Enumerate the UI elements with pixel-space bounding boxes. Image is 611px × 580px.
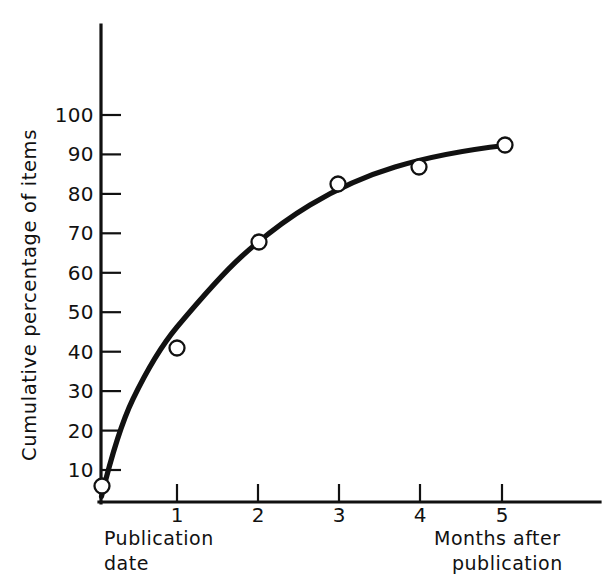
- data-markers: [95, 138, 513, 494]
- x-axis-ticks: [177, 484, 502, 501]
- x-tick-label-2: 2: [252, 503, 265, 527]
- chart-canvas: 100 90 80 70 60 50 40 30 20 10 1 2 3 4 5: [0, 0, 611, 580]
- y-tick-label-100: 100: [55, 103, 94, 127]
- publication-date-line2: date: [104, 552, 149, 574]
- data-point-2: [252, 235, 267, 250]
- x-tick-label-3: 3: [333, 503, 346, 527]
- y-tick-label-50: 50: [68, 300, 94, 324]
- data-point-1: [170, 341, 185, 356]
- x-axis-caption-right: Months after publication: [434, 527, 563, 574]
- data-point-0: [95, 479, 110, 494]
- y-tick-label-20: 20: [68, 419, 94, 443]
- y-axis-title: Cumulative percentage of items: [18, 129, 41, 461]
- y-tick-label-70: 70: [68, 221, 94, 245]
- chart-figure: 100 90 80 70 60 50 40 30 20 10 1 2 3 4 5: [0, 0, 611, 580]
- data-curve: [102, 146, 506, 497]
- y-tick-label-80: 80: [68, 182, 94, 206]
- x-tick-label-1: 1: [171, 503, 184, 527]
- data-point-3: [331, 177, 346, 192]
- months-after-line2: publication: [452, 552, 563, 574]
- y-axis-tick-labels: 100 90 80 70 60 50 40 30 20 10: [55, 103, 94, 482]
- months-after-line1: Months after: [434, 527, 560, 549]
- data-point-5: [498, 138, 513, 153]
- y-tick-label-30: 30: [68, 379, 94, 403]
- x-axis-tick-labels: 1 2 3 4 5: [171, 503, 509, 527]
- y-axis-ticks: [102, 115, 121, 470]
- publication-date-line1: Publication: [104, 527, 214, 549]
- x-axis-caption-left: Publication date: [104, 527, 214, 574]
- y-tick-label-90: 90: [68, 142, 94, 166]
- y-tick-label-10: 10: [68, 458, 94, 482]
- y-tick-label-40: 40: [68, 340, 94, 364]
- data-point-4: [412, 160, 427, 175]
- x-tick-label-4: 4: [414, 503, 427, 527]
- y-tick-label-60: 60: [68, 261, 94, 285]
- x-tick-label-5: 5: [496, 503, 509, 527]
